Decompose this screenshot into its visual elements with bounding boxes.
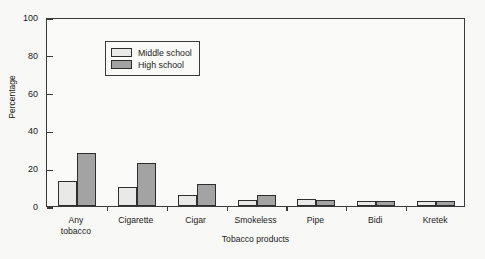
- legend-item-middle-school: Middle school: [111, 47, 192, 58]
- bar-group: [238, 19, 276, 206]
- x-category-label: Cigar: [166, 215, 226, 226]
- bar-high-school: [436, 201, 455, 206]
- bar-high-school: [77, 153, 96, 206]
- legend-swatch-middle-school: [111, 48, 132, 57]
- x-category-label: Smokeless: [226, 215, 286, 226]
- bar-middle-school: [58, 181, 77, 206]
- plot-area: 020406080100 Middle school High school: [46, 18, 465, 207]
- bar-middle-school: [357, 201, 376, 206]
- y-tick-label: 100: [23, 13, 38, 23]
- x-category-line: Cigarette: [106, 215, 166, 226]
- bar-high-school: [376, 201, 395, 206]
- x-category-label: Bidi: [345, 215, 405, 226]
- legend-label-middle-school: Middle school: [138, 48, 192, 58]
- bar-middle-school: [297, 199, 316, 206]
- y-tick-label: 20: [28, 164, 38, 174]
- x-category-line: Kretek: [405, 215, 465, 226]
- x-category-label: Pipe: [285, 215, 345, 226]
- y-tick-label: 0: [33, 202, 38, 212]
- legend-swatch-high-school: [111, 60, 132, 69]
- x-tick-divider: [227, 206, 228, 211]
- x-category-line: Cigar: [166, 215, 226, 226]
- x-category-line: Any: [46, 215, 106, 226]
- bar-group: [357, 19, 395, 206]
- x-tick-divider: [346, 206, 347, 211]
- bar-chart: Percentage 020406080100 Middle school Hi…: [0, 0, 485, 259]
- x-category-line: Bidi: [345, 215, 405, 226]
- y-tick-mark: [47, 207, 53, 208]
- bar-high-school: [316, 200, 335, 206]
- y-tick-label: 60: [28, 89, 38, 99]
- bar-group: [417, 19, 455, 206]
- legend-item-high-school: High school: [111, 59, 192, 70]
- x-category-label: Cigarette: [106, 215, 166, 226]
- y-tick-label: 80: [28, 51, 38, 61]
- bar-middle-school: [118, 187, 137, 206]
- x-category-label: Anytobacco: [46, 215, 106, 236]
- x-tick-divider: [406, 206, 407, 211]
- bar-high-school: [137, 163, 156, 206]
- legend: Middle school High school: [105, 41, 200, 76]
- x-tick-divider: [286, 206, 287, 211]
- bar-middle-school: [238, 200, 257, 206]
- bar-high-school: [197, 184, 216, 206]
- x-category-label: Kretek: [405, 215, 465, 226]
- bar-group: [58, 19, 96, 206]
- x-tick-divider: [107, 206, 108, 211]
- bar-high-school: [257, 195, 276, 206]
- x-category-line: Smokeless: [226, 215, 286, 226]
- x-category-line: Pipe: [285, 215, 345, 226]
- bar-group: [297, 19, 335, 206]
- y-tick-label: 40: [28, 126, 38, 136]
- bar-middle-school: [417, 201, 436, 206]
- y-axis-title: Percentage: [7, 57, 17, 137]
- x-axis-title: Tobacco products: [46, 234, 465, 244]
- bar-middle-school: [178, 195, 197, 206]
- legend-label-high-school: High school: [138, 60, 184, 70]
- x-tick-divider: [167, 206, 168, 211]
